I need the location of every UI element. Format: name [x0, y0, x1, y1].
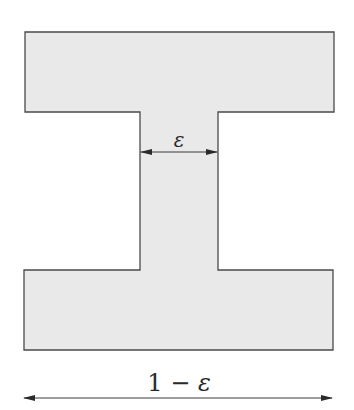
i-beam-shape [24, 32, 334, 350]
total-width-symbol: ε [198, 369, 211, 397]
i-beam-diagram [0, 0, 354, 410]
total-width-number: 1 [147, 369, 162, 397]
total-width-operator: − [163, 369, 198, 397]
web-width-label: ε [174, 128, 185, 152]
total-width-label: 1 − ε [147, 369, 211, 397]
